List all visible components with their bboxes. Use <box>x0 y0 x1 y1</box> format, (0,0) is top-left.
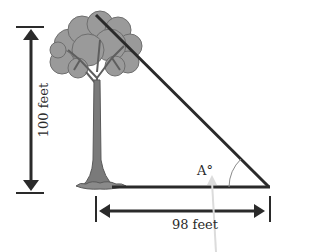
angle-arc <box>229 159 241 187</box>
hypotenuse-line <box>96 15 269 187</box>
height-label: 100 feet <box>36 83 51 137</box>
base-label: 98 feet <box>172 217 218 232</box>
angle-label: A° <box>197 163 213 178</box>
tree-icon <box>50 11 142 189</box>
